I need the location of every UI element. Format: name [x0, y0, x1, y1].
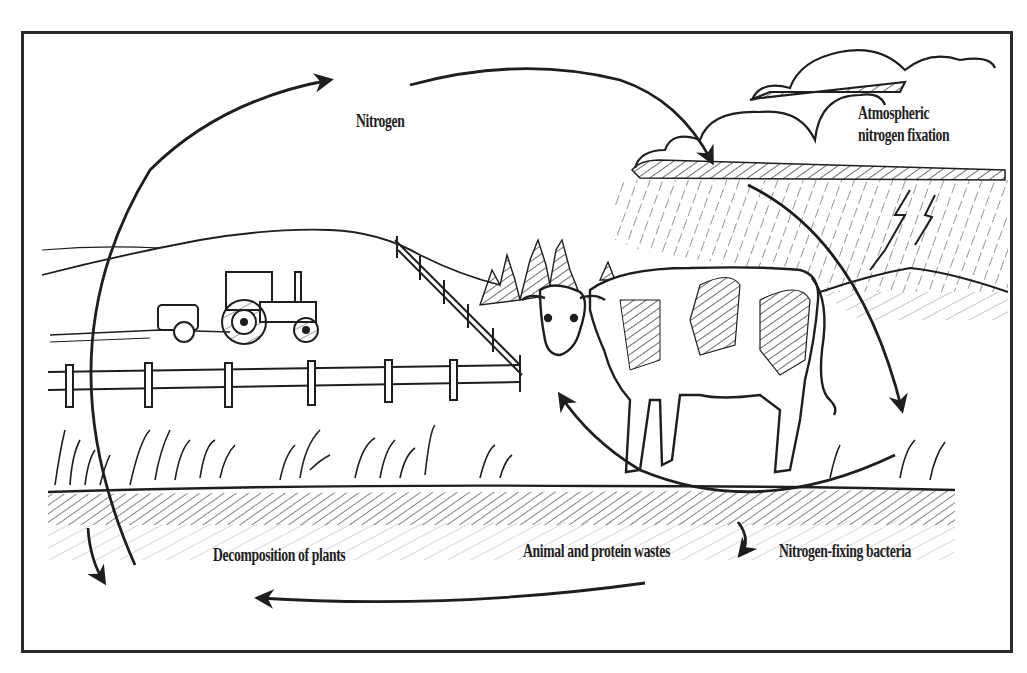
label-animal-wastes: Animal and protein wastes [523, 540, 670, 562]
cow [522, 267, 835, 472]
label-atmospheric-line1: Atmospheric [858, 102, 929, 124]
arrow-waste-to-decomposition [258, 583, 645, 602]
arrow-bacteria-to-animal [560, 395, 895, 492]
label-decomposition: Decomposition of plants [213, 544, 345, 566]
nitrogen-cycle-illustration [0, 0, 1027, 673]
label-nitrogen: Nitrogen [356, 110, 405, 132]
tractor [50, 272, 318, 344]
label-bacteria: Nitrogen-fixing bacteria [779, 540, 911, 562]
diagonal-fence [395, 236, 522, 392]
label-atmospheric-line2: nitrogen fixation [858, 124, 949, 146]
horizontal-fence [48, 360, 520, 407]
grass [55, 425, 945, 485]
upper-cloud [750, 50, 995, 100]
